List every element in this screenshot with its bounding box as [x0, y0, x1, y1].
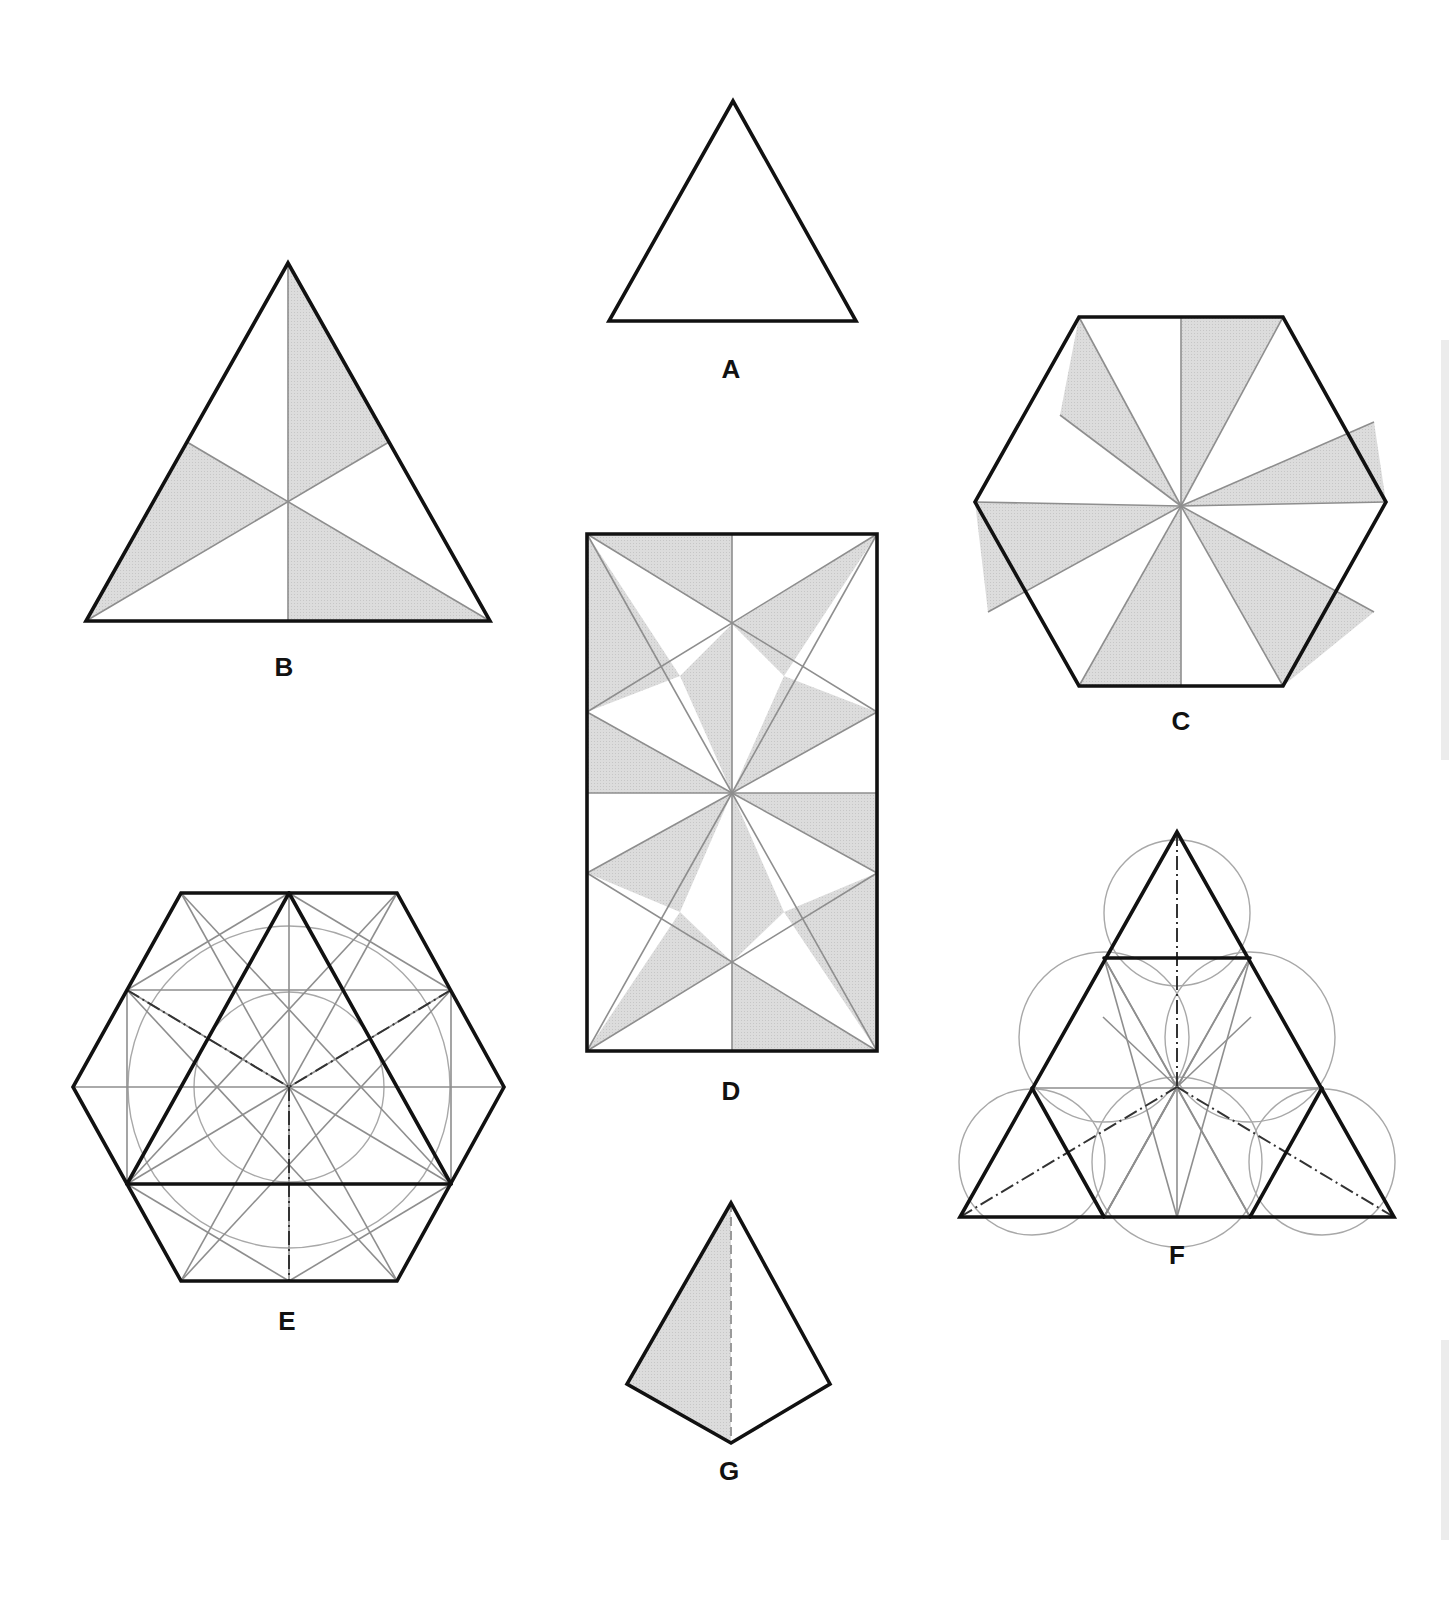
figure-g-tetrahedron — [627, 1203, 830, 1443]
figure-label-b: B — [275, 652, 294, 682]
shaded-region — [627, 1203, 731, 1443]
figure-label-f: F — [1169, 1240, 1185, 1270]
shaded-region — [732, 534, 877, 676]
construction-line — [127, 1184, 289, 1281]
construction-line — [732, 534, 877, 793]
figure-d-pinwheel-rectangle — [587, 534, 877, 1051]
page-edge-shadow — [1441, 340, 1449, 760]
figure-a-equilateral-triangle — [609, 101, 856, 321]
construction-circle — [1165, 952, 1335, 1122]
construction-circle — [959, 1089, 1105, 1235]
figure-c-pinwheel-hexagon — [975, 317, 1386, 686]
figure-label-d: D — [722, 1076, 741, 1106]
shaded-region — [587, 912, 732, 1051]
construction-line — [127, 893, 397, 1184]
construction-line — [587, 793, 732, 1051]
construction-line — [127, 893, 289, 990]
bold-edge — [289, 893, 451, 1184]
figure-e-hexagon-construction — [73, 893, 504, 1281]
figure-label-e: E — [278, 1306, 295, 1336]
construction-circle — [1019, 952, 1189, 1122]
figure-f-triangle-rosette-construction — [959, 832, 1395, 1247]
figure-b-shaded-median-triangle — [86, 263, 490, 621]
shaded-region — [732, 793, 784, 962]
construction-line — [289, 893, 451, 990]
construction-circle — [1249, 1089, 1395, 1235]
page-edge-shadow — [1441, 1340, 1449, 1540]
shaded-region — [732, 676, 877, 793]
diagram-canvas: A B C D E F G — [0, 0, 1449, 1617]
shaded-region — [86, 442, 288, 621]
figure-label-a: A — [722, 354, 741, 384]
bold-edge — [127, 893, 289, 1184]
shaded-region — [288, 263, 389, 502]
construction-line — [127, 990, 397, 1281]
figure-label-g: G — [719, 1456, 739, 1486]
construction-line — [1104, 1087, 1177, 1217]
shaded-region — [1060, 317, 1181, 506]
figure-label-c: C — [1172, 706, 1191, 736]
construction-line — [181, 893, 451, 1184]
figure-outline — [609, 101, 856, 321]
construction-line — [289, 1184, 451, 1281]
shaded-region — [587, 793, 732, 912]
construction-line — [181, 990, 451, 1281]
